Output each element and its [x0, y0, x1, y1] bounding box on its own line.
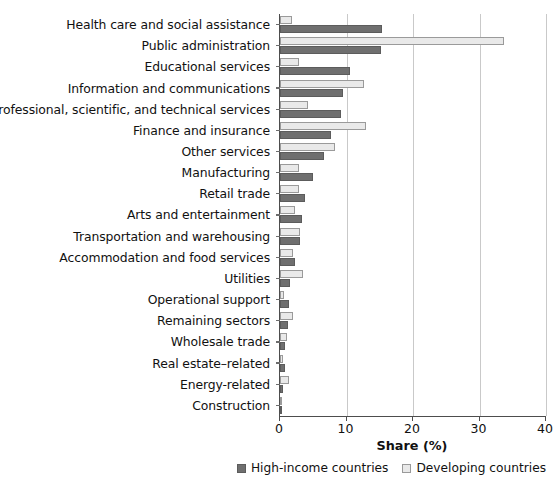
category-label: Other services [0, 141, 279, 162]
category-axis: Health care and social assistancePublic … [0, 14, 279, 416]
x-tick-label: 40 [537, 421, 553, 436]
category-tick [276, 214, 280, 215]
legend-swatch-icon [237, 464, 246, 473]
bar-developing-countries [280, 206, 295, 214]
category-label: Operational support [0, 289, 279, 310]
category-tick [276, 299, 280, 300]
category-label: Transportation and warehousing [0, 226, 279, 247]
category-tick [276, 45, 280, 46]
bar-developing-countries [280, 249, 293, 257]
gridline [546, 14, 547, 416]
bar-high-income-countries [280, 194, 305, 202]
bar-developing-countries [280, 397, 282, 405]
bar-row [280, 183, 546, 204]
category-label: Information and communications [0, 77, 279, 98]
bar-row [280, 120, 546, 141]
legend-label: High-income countries [251, 461, 389, 475]
x-tick-label: 30 [471, 421, 487, 436]
category-tick [276, 384, 280, 385]
category-label: Utilities [0, 268, 279, 289]
bar-row [280, 77, 546, 98]
bar-high-income-countries [280, 406, 282, 414]
category-tick [276, 193, 280, 194]
category-label: Arts and entertainment [0, 204, 279, 225]
category-label: Manufacturing [0, 162, 279, 183]
category-tick [276, 320, 280, 321]
bar-row [280, 226, 546, 247]
bar-high-income-countries [280, 131, 331, 139]
bar-developing-countries [280, 143, 335, 151]
bar-row [280, 162, 546, 183]
bar-high-income-countries [280, 173, 313, 181]
category-tick [276, 87, 280, 88]
bar-row [280, 35, 546, 56]
legend-label: Developing countries [416, 461, 546, 475]
bar-row [280, 374, 546, 395]
bar-high-income-countries [280, 152, 324, 160]
bar-developing-countries [280, 101, 308, 109]
bar-row [280, 331, 546, 352]
bar-developing-countries [280, 80, 364, 88]
bar-developing-countries [280, 37, 504, 45]
category-tick [276, 109, 280, 110]
bar-rows [280, 14, 546, 416]
category-tick [276, 172, 280, 173]
category-tick [276, 341, 280, 342]
category-tick [276, 257, 280, 258]
bar-developing-countries [280, 355, 283, 363]
category-label: Finance and insurance [0, 120, 279, 141]
bar-developing-countries [280, 164, 299, 172]
x-tick-label: 10 [338, 421, 354, 436]
category-tick [276, 278, 280, 279]
bar-row [280, 56, 546, 77]
bar-developing-countries [280, 228, 300, 236]
bar-developing-countries [280, 185, 299, 193]
bar-high-income-countries [280, 258, 295, 266]
bar-high-income-countries [280, 110, 341, 118]
legend-item[interactable]: High-income countries [237, 461, 389, 475]
category-tick [276, 151, 280, 152]
category-tick [276, 130, 280, 131]
bar-developing-countries [280, 16, 292, 24]
bar-developing-countries [280, 270, 303, 278]
category-label: Public administration [0, 35, 279, 56]
category-tick [276, 66, 280, 67]
category-label: Educational services [0, 56, 279, 77]
bar-high-income-countries [280, 237, 300, 245]
x-tick-label: 20 [404, 421, 420, 436]
bar-high-income-countries [280, 321, 288, 329]
bar-high-income-countries [280, 385, 283, 393]
bar-row [280, 395, 546, 416]
bar-high-income-countries [280, 25, 382, 33]
bar-high-income-countries [280, 67, 350, 75]
category-tick [276, 405, 280, 406]
bar-row [280, 310, 546, 331]
bar-row [280, 268, 546, 289]
bar-developing-countries [280, 291, 284, 299]
bar-row [280, 14, 546, 35]
bar-developing-countries [280, 122, 366, 130]
bar-high-income-countries [280, 364, 285, 372]
bar-developing-countries [280, 58, 299, 66]
bar-row [280, 353, 546, 374]
legend-item[interactable]: Developing countries [402, 461, 546, 475]
bar-high-income-countries [280, 300, 289, 308]
category-label: Energy-related [0, 374, 279, 395]
bar-developing-countries [280, 376, 289, 384]
bar-high-income-countries [280, 46, 381, 54]
legend-swatch-icon [402, 464, 411, 473]
bar-high-income-countries [280, 342, 285, 350]
category-label: Real estate–related [0, 353, 279, 374]
category-tick [276, 236, 280, 237]
bar-row [280, 247, 546, 268]
bar-row [280, 99, 546, 120]
bar-developing-countries [280, 333, 287, 341]
category-label: Remaining sectors [0, 310, 279, 331]
bar-row [280, 204, 546, 225]
category-label: Retail trade [0, 183, 279, 204]
x-axis-title: Share (%) [279, 438, 545, 453]
category-tick [276, 362, 280, 363]
category-label: Health care and social assistance [0, 14, 279, 35]
category-tick [276, 24, 280, 25]
